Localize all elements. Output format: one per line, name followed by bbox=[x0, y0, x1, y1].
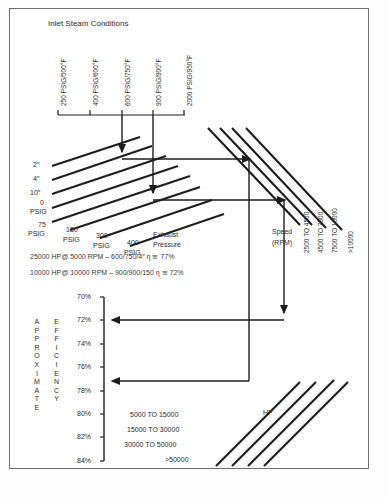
efficiency-tick-72: 72% bbox=[77, 316, 91, 323]
exhaust-label-4in: 4″ bbox=[33, 175, 39, 182]
speed-range-label-0: 2500 TO 4500 bbox=[304, 212, 311, 253]
exhaust-label-0: 0 bbox=[40, 199, 44, 206]
exhaust-label-300-psig: PSIG bbox=[93, 242, 110, 249]
exhaust-label-0-psig: PSIG bbox=[30, 208, 47, 215]
exhaust-label-75: 75 bbox=[38, 221, 46, 228]
exhaust-pressure-title-line1: Exhaust bbox=[153, 231, 178, 238]
speed-range-label-1: 4500 TO 7500 bbox=[318, 212, 325, 253]
worked-example-2: 10000 HP@ 10000 RPM – 900/900/150 η ≅ 72… bbox=[30, 269, 184, 276]
exhaust-label-150-psig: PSIG bbox=[63, 236, 80, 243]
exhaust-label-75-psig: PSIG bbox=[28, 230, 45, 237]
hp-range-label-3: >50000 bbox=[165, 456, 189, 463]
speed-range-label-2: 7500 TO 10000 bbox=[332, 208, 339, 253]
efficiency-axis-label-approximate: APPROXIMATE bbox=[34, 318, 40, 413]
efficiency-axis-label-efficiency: EFFICIENCY bbox=[54, 318, 59, 404]
speed-legend-title: Speed bbox=[272, 228, 292, 235]
exhaust-label-150: 150 bbox=[66, 226, 78, 233]
efficiency-tick-74: 74% bbox=[77, 340, 91, 347]
figure-page: Inlet Steam Conditions 250 PSIG/500°F 40… bbox=[0, 0, 386, 498]
efficiency-tick-82: 82% bbox=[77, 433, 91, 440]
hp-range-label-2: 30000 TO 50000 bbox=[124, 441, 176, 448]
worked-example-1: 25000 HP@ 5000 RPM – 600/750/4″ η ≅ 77% bbox=[30, 253, 174, 260]
exhaust-label-10in: 10″ bbox=[30, 189, 40, 196]
inlet-label-3: 900 PSIG/900°F bbox=[156, 59, 163, 106]
speed-range-label-3: >10000 bbox=[348, 231, 355, 253]
exhaust-label-2in: 2″ bbox=[33, 161, 39, 168]
exhaust-label-400: 400 bbox=[127, 239, 139, 246]
inlet-label-1: 400 PSIG/600°F bbox=[93, 59, 100, 106]
efficiency-tick-84: 84% bbox=[77, 457, 91, 464]
hp-range-label-0: 5000 TO 15000 bbox=[130, 411, 178, 418]
efficiency-tick-76: 76% bbox=[77, 363, 91, 370]
inlet-label-2: 600 PSIG/750°F bbox=[125, 59, 132, 106]
hp-range-label-1: 15000 TO 30000 bbox=[127, 426, 179, 433]
hp-legend-title: HP bbox=[263, 409, 273, 416]
speed-legend-subtitle: (RPM) bbox=[272, 239, 292, 246]
inlet-label-0: 250 PSIG/500°F bbox=[61, 59, 68, 106]
inlet-label-4: 2000 PSIG/950°F bbox=[187, 55, 194, 106]
efficiency-tick-70: 70% bbox=[77, 293, 91, 300]
efficiency-tick-80: 80% bbox=[77, 410, 91, 417]
exhaust-label-300: 300 bbox=[96, 232, 108, 239]
inlet-steam-conditions-title: Inlet Steam Conditions bbox=[48, 20, 129, 28]
efficiency-tick-78: 78% bbox=[77, 387, 91, 394]
exhaust-pressure-title-line2: Pressure bbox=[153, 241, 181, 248]
